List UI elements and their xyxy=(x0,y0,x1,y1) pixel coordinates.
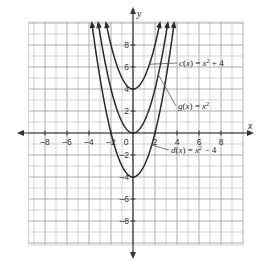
y-tick-label: –6 xyxy=(120,194,130,204)
x-tick-label: –8 xyxy=(40,137,50,147)
x-tick-label: –4 xyxy=(84,137,94,147)
x-tick-label: 8 xyxy=(219,137,224,147)
function-label: g(x) = x2 xyxy=(178,101,209,112)
y-tick-label: –8 xyxy=(120,216,130,226)
y-tick-label: 8 xyxy=(124,40,129,50)
function-label: d(x) = x2 − 4 xyxy=(171,145,217,156)
parabola-chart: –8–6–4–2024688642–2–4–6–8 c(x) = x2 + 4g… xyxy=(0,0,267,270)
x-tick-label: 0 xyxy=(124,137,129,147)
x-axis-label: x xyxy=(247,120,253,131)
function-label: c(x) = x2 + 4 xyxy=(179,58,224,69)
y-axis-label: y xyxy=(136,8,142,19)
y-tick-label: –2 xyxy=(120,150,130,160)
y-tick-label: 2 xyxy=(124,106,129,116)
y-tick-label: 6 xyxy=(124,62,129,72)
x-tick-label: –6 xyxy=(62,137,72,147)
